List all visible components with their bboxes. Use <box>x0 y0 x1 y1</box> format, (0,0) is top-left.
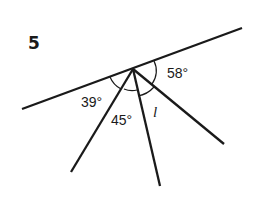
arc-39 <box>110 77 121 89</box>
arc-l <box>138 87 154 96</box>
arc-58 <box>152 61 156 84</box>
angle-label-58: 58° <box>167 65 188 81</box>
problem-number: 5 <box>28 33 40 53</box>
arc-45 <box>124 89 137 91</box>
angle-label-39: 39° <box>81 94 102 110</box>
angle-label-l: l <box>153 104 157 120</box>
angle-label-45: 45° <box>111 112 132 128</box>
angle-diagram: 5 39° 45° l 58° <box>0 0 261 213</box>
